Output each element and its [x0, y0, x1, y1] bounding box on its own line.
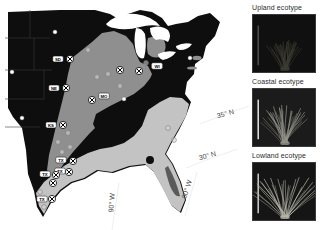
site-marker-ring: [86, 48, 91, 53]
site-marker-ring: [166, 126, 171, 131]
site-marker-dot: [10, 70, 14, 74]
map-region-coastal-newengland: [193, 56, 202, 60]
coordinate-label: 90° W: [107, 193, 115, 213]
ecotype-photo-panels: Upland ecotype Coastal ecotype Lowland e…: [252, 0, 318, 230]
coastal-ecotype-photo: [252, 88, 316, 147]
site-marker-ring: [68, 145, 73, 150]
lowland-plant-image: [253, 163, 315, 220]
site-marker-x: TX: [37, 195, 56, 202]
site-marker-dot: [53, 30, 57, 34]
site-marker-x: KS: [46, 121, 67, 128]
map-region-long-island: [187, 66, 197, 69]
coordinate-label: 80° W: [180, 179, 193, 200]
site-marker-ring: [118, 84, 123, 89]
scale-bar: [257, 26, 259, 66]
ecotype-distribution-figure: WISDNEMOKSTXTXTXTX 35° N30° N90° W80° W …: [0, 0, 320, 230]
upland-ecotype-label: Upland ecotype: [252, 4, 318, 12]
site-marker-x: [116, 66, 123, 73]
ecotype-panel-lowland: Lowland ecotype: [252, 152, 318, 221]
site-code-text: TX: [42, 172, 48, 177]
site-marker-ring: [106, 72, 111, 77]
site-marker-ring: [60, 150, 65, 155]
lowland-ecotype-photo: [252, 162, 316, 221]
map-region-panhandle-patch: [146, 156, 154, 164]
site-code-text: TX: [39, 197, 45, 202]
site-code-text: TX: [58, 158, 64, 163]
site-marker-x: SD: [53, 55, 74, 62]
ecotype-panel-upland: Upland ecotype: [252, 4, 318, 73]
upland-plant-image: [253, 15, 315, 72]
site-marker-x: NE: [49, 84, 70, 91]
site-code-text: KS: [48, 123, 54, 128]
site-marker-ring: [38, 190, 43, 195]
site-marker-x: [135, 67, 142, 74]
ecotype-panel-coastal: Coastal ecotype: [252, 78, 318, 147]
scale-bar: [257, 100, 259, 140]
coastal-plant-image: [253, 89, 315, 146]
site-code-text: SD: [55, 57, 61, 62]
site-marker-ring: [42, 205, 47, 210]
site-marker-ring: [56, 140, 61, 145]
site-code-text: WI: [154, 64, 159, 69]
coordinate-label: 35° N: [216, 108, 235, 119]
site-marker-dot: [188, 56, 192, 60]
site-marker-dot: [122, 97, 126, 101]
site-code-text: MO: [101, 94, 109, 99]
ecotype-range-map: WISDNEMOKSTXTXTXTX 35° N30° N90° W80° W: [0, 0, 250, 230]
lowland-ecotype-label: Lowland ecotype: [252, 152, 318, 160]
site-marker-dot: [20, 116, 24, 120]
site-marker-ring: [95, 75, 100, 80]
site-marker-ring: [66, 131, 71, 136]
upland-ecotype-photo: [252, 14, 316, 73]
site-marker-ring: [172, 138, 177, 143]
site-marker-x: [49, 179, 56, 186]
site-code-text: NE: [51, 86, 57, 91]
coastal-ecotype-label: Coastal ecotype: [252, 78, 318, 86]
